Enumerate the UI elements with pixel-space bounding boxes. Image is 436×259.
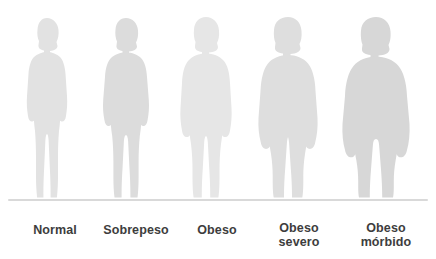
bmi-body-shapes-infographic: Normal Sobrepeso Obeso Obeso severo Obes… bbox=[0, 0, 436, 259]
ground-baseline bbox=[8, 199, 428, 201]
silhouette-obeso-severo bbox=[258, 17, 317, 198]
silhouette-normal bbox=[27, 18, 67, 198]
silhouette-obeso-morbido bbox=[342, 17, 409, 198]
label-obeso-line1: Obeso bbox=[197, 223, 236, 237]
silhouette-sobrepeso bbox=[103, 18, 149, 198]
label-obeso: Obeso bbox=[172, 208, 262, 237]
silhouette-obeso bbox=[180, 17, 231, 198]
silhouettes-group bbox=[0, 0, 436, 205]
label-sobrepeso-line1: Sobrepeso bbox=[103, 223, 169, 237]
labels-row: Normal Sobrepeso Obeso Obeso severo Obes… bbox=[0, 204, 436, 259]
label-obeso-severo-line1: Obeso bbox=[279, 221, 318, 235]
label-normal-line1: Normal bbox=[33, 223, 77, 237]
label-obeso-severo-line2: severo bbox=[250, 235, 348, 250]
label-obeso-morbido-line1: Obeso bbox=[366, 221, 405, 235]
label-obeso-severo: Obeso severo bbox=[250, 206, 348, 259]
label-obeso-morbido: Obeso mórbido bbox=[336, 206, 436, 259]
label-obeso-morbido-line2: mórbido bbox=[336, 235, 436, 250]
